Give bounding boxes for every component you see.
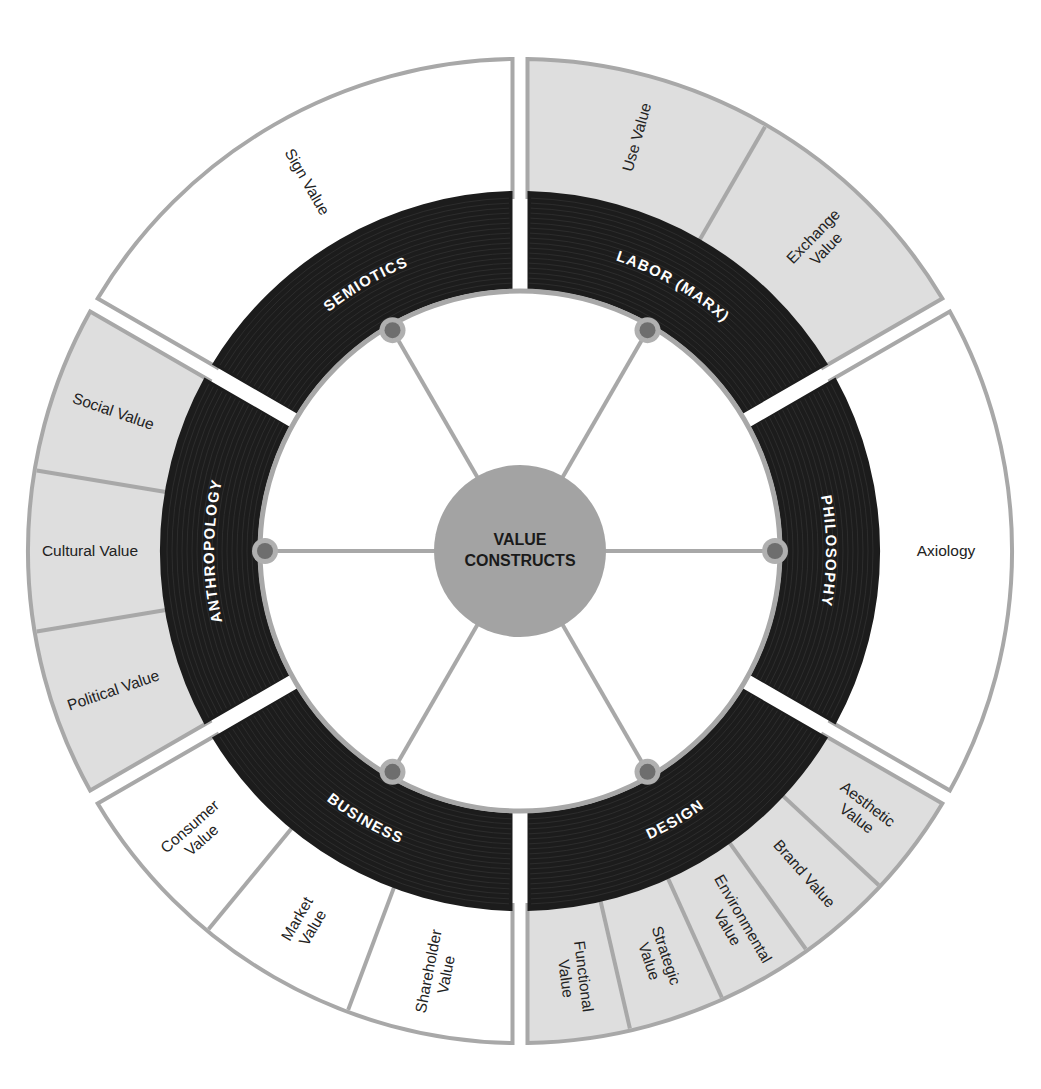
hub-label-line-2: CONSTRUCTS (464, 552, 575, 569)
sub-value-label: Cultural Value (42, 542, 138, 559)
sub-value-label: Axiology (917, 542, 976, 559)
node-dot (385, 322, 401, 338)
node-dot (767, 543, 783, 559)
center-hub: VALUE CONSTRUCTS (434, 465, 606, 637)
node-dot (257, 543, 273, 559)
node-dot (385, 764, 401, 780)
node-dot (640, 764, 656, 780)
node-dot (640, 322, 656, 338)
hub-circle (434, 465, 606, 637)
hub-label-line-1: VALUE (493, 531, 546, 548)
value-constructs-wheel: Use ValueExchangeValueAxiologyAestheticV… (0, 0, 1041, 1089)
